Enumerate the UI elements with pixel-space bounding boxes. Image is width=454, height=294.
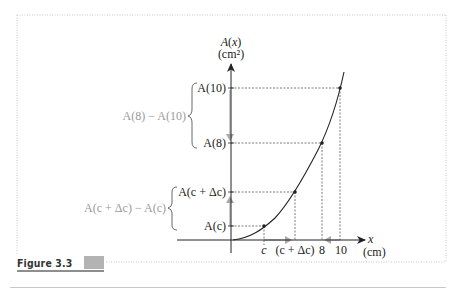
label-acdc: A(c + Δc) bbox=[178, 185, 226, 199]
y-axis-unit: (cm²) bbox=[218, 47, 244, 61]
x-axis-unit: (cm) bbox=[363, 245, 386, 259]
figure-caption: Figure 3.3 bbox=[17, 257, 72, 270]
projection-lines bbox=[231, 88, 340, 245]
tick-10: 10 bbox=[335, 243, 347, 257]
brace-label-upper: A(8) − A(10) bbox=[123, 109, 186, 123]
tick-cdc: (c + Δc) bbox=[275, 243, 314, 257]
tick-c: c bbox=[261, 243, 267, 257]
point-c bbox=[262, 224, 266, 228]
label-a8: A(8) bbox=[203, 136, 226, 150]
caption-accent-box bbox=[84, 256, 104, 269]
brace-label-lower: A(c + Δc) − A(c) bbox=[84, 201, 166, 215]
bottom-rule bbox=[10, 287, 446, 288]
point-8 bbox=[320, 141, 324, 145]
braces bbox=[168, 83, 197, 230]
figure-canvas: A(x) (cm²) x (cm) A(10) A(8) A(c + Δc) A… bbox=[0, 0, 454, 294]
x-axis-label: x bbox=[367, 232, 374, 246]
area-curve bbox=[233, 72, 344, 240]
point-c-dc bbox=[293, 190, 297, 194]
curve-points bbox=[262, 86, 342, 228]
label-a10: A(10) bbox=[197, 81, 226, 95]
label-ac: A(c) bbox=[204, 219, 226, 233]
point-10 bbox=[338, 86, 342, 90]
difference-arrows bbox=[226, 90, 340, 244]
tick-8: 8 bbox=[319, 243, 325, 257]
caption-underline bbox=[17, 270, 104, 272]
